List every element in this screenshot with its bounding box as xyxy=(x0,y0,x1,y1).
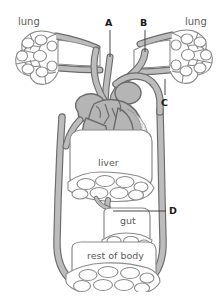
bottom-margin xyxy=(0,292,224,302)
circulatory-system-figure: lung lung A B C D liver gut rest of body xyxy=(0,0,224,302)
rest-of-body-group xyxy=(66,242,160,296)
liver-group xyxy=(68,130,154,212)
top-margin xyxy=(0,0,224,7)
lung-left-group xyxy=(16,31,100,84)
diagram-canvas xyxy=(0,0,224,302)
